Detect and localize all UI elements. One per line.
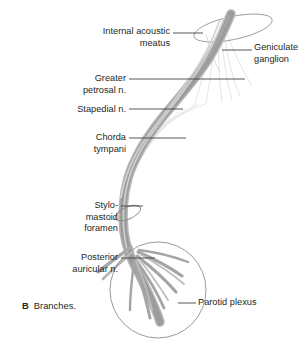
label-posterior-auricular-line1: Posterior bbox=[81, 252, 118, 262]
figure-caption-text: Branches. bbox=[34, 300, 76, 311]
label-greater-petrosal-line1: Greater bbox=[95, 73, 126, 83]
label-posterior-auricular-nerve: Posteriorauricular n. bbox=[28, 252, 118, 275]
label-geniculate-ganglion-line2: ganglion bbox=[254, 54, 289, 64]
label-chorda-tympani: Chordatympani bbox=[42, 132, 126, 155]
label-stapedial-nerve: Stapedial n. bbox=[22, 104, 126, 116]
label-chorda-tympani-line1: Chorda bbox=[96, 132, 126, 142]
label-chorda-tympani-line2: tympani bbox=[94, 144, 126, 154]
label-stapedial-line1: Stapedial n. bbox=[77, 104, 126, 114]
label-parotid-plexus: Parotid plexus bbox=[198, 297, 298, 309]
label-posterior-auricular-line2: auricular n. bbox=[72, 264, 118, 274]
label-stylomastoid-foramen-line2: mastoid bbox=[86, 212, 118, 222]
label-internal-acoustic-meatus-line2: meatus bbox=[140, 38, 170, 48]
label-greater-petrosal-nerve: Greaterpetrosal n. bbox=[42, 73, 126, 96]
label-stylomastoid-foramen-line1: Stylo- bbox=[94, 200, 118, 210]
label-stylomastoid-foramen: Stylo-mastoidforamen bbox=[40, 200, 118, 235]
label-geniculate-ganglion-line1: Geniculate bbox=[254, 42, 298, 52]
label-internal-acoustic-meatus: Internal acousticmeatus bbox=[62, 26, 170, 49]
label-geniculate-ganglion: Geniculateganglion bbox=[254, 42, 307, 65]
label-internal-acoustic-meatus-line1: Internal acoustic bbox=[103, 26, 170, 36]
figure-caption: BBranches. bbox=[22, 300, 76, 312]
label-greater-petrosal-line2: petrosal n. bbox=[83, 85, 126, 95]
figure-facial-nerve-branches: Internal acousticmeatus Geniculategangli… bbox=[0, 0, 307, 345]
label-stylomastoid-foramen-line3: foramen bbox=[84, 223, 118, 233]
accessory-fiber-bundle bbox=[121, 18, 224, 254]
figure-caption-letter: B bbox=[22, 300, 29, 311]
label-parotid-plexus-line1: Parotid plexus bbox=[198, 297, 257, 307]
